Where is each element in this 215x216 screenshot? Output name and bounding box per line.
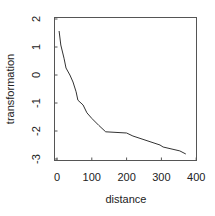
x-tick-label: 0 xyxy=(54,171,60,183)
y-tick-label: -3 xyxy=(30,154,42,164)
x-tick-label: 400 xyxy=(187,171,205,183)
x-tick-label: 300 xyxy=(152,171,170,183)
y-tick-label: 2 xyxy=(30,16,42,22)
line-chart: 0100200300400 -3-2-1012 distance transfo… xyxy=(0,0,215,216)
plot-frame xyxy=(55,18,197,161)
x-axis: 0100200300400 xyxy=(54,158,205,184)
y-tick-label: -2 xyxy=(30,126,42,136)
x-tick-label: 100 xyxy=(83,171,101,183)
x-axis-label: distance xyxy=(106,193,147,205)
data-line xyxy=(59,31,186,154)
y-tick-label: 1 xyxy=(30,44,42,50)
x-tick-label: 200 xyxy=(117,171,135,183)
y-axis: -3-2-1012 xyxy=(30,16,58,164)
y-tick-label: 0 xyxy=(30,72,42,78)
y-axis-label: transformation xyxy=(4,54,16,124)
y-tick-label: -1 xyxy=(30,98,42,108)
